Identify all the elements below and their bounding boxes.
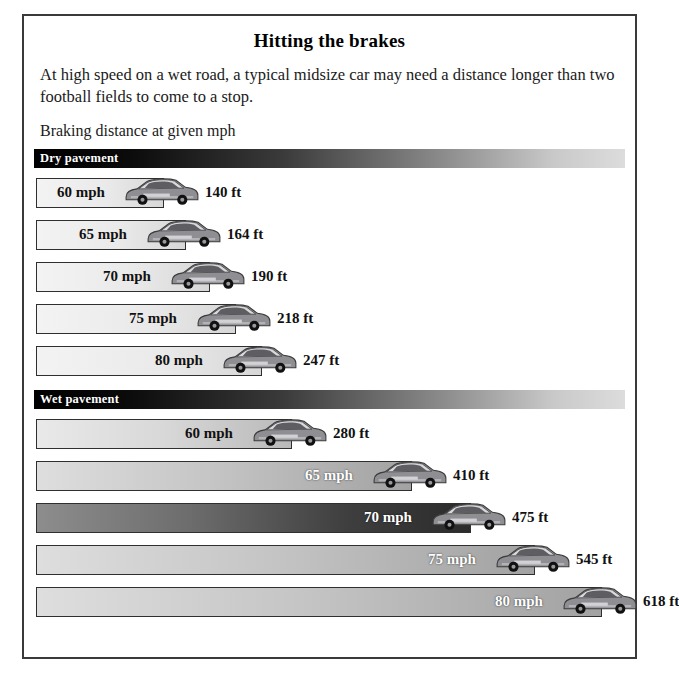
distance-label: 247 ft bbox=[303, 352, 339, 369]
distance-label: 164 ft bbox=[227, 226, 263, 243]
speed-label: 65 mph bbox=[79, 226, 127, 243]
car-icon bbox=[561, 585, 639, 618]
distance-label: 190 ft bbox=[251, 268, 287, 285]
deck-text: At high speed on a wet road, a typical m… bbox=[40, 64, 619, 108]
section-header-wet-label: Wet pavement bbox=[40, 392, 119, 407]
car-icon bbox=[251, 417, 329, 450]
car-icon bbox=[430, 501, 508, 534]
dry-bar-list: 60 mph 140 ft 65 mph 164 ft 70 mph bbox=[34, 174, 625, 379]
section-wet-pavement: Wet pavement 60 mph 280 ft 65 mph 410 ft… bbox=[34, 390, 625, 620]
distance-label: 618 ft bbox=[643, 593, 679, 610]
speed-label: 70 mph bbox=[364, 509, 412, 526]
bar-row: 70 mph 475 ft bbox=[34, 499, 625, 536]
bar-row: 60 mph 140 ft bbox=[34, 174, 625, 211]
wet-bar-list: 60 mph 280 ft 65 mph 410 ft 70 mph bbox=[34, 415, 625, 620]
car-icon bbox=[145, 218, 223, 251]
speed-label: 60 mph bbox=[185, 425, 233, 442]
distance-label: 280 ft bbox=[333, 425, 369, 442]
distance-bar bbox=[36, 461, 412, 491]
page-title: Hitting the brakes bbox=[24, 30, 635, 52]
distance-label: 410 ft bbox=[453, 467, 489, 484]
bar-row: 80 mph 247 ft bbox=[34, 342, 625, 379]
bar-row: 70 mph 190 ft bbox=[34, 258, 625, 295]
bar-row: 65 mph 164 ft bbox=[34, 216, 625, 253]
section-dry-pavement: Dry pavement 60 mph 140 ft 65 mph 164 ft… bbox=[34, 149, 625, 379]
car-icon bbox=[195, 302, 273, 335]
bar-row: 65 mph 410 ft bbox=[34, 457, 625, 494]
car-icon bbox=[123, 176, 201, 209]
bar-row: 60 mph 280 ft bbox=[34, 415, 625, 452]
speed-label: 80 mph bbox=[495, 593, 543, 610]
car-icon bbox=[494, 543, 572, 576]
speed-label: 75 mph bbox=[129, 310, 177, 327]
chart-subtitle: Braking distance at given mph bbox=[40, 122, 619, 140]
section-header-wet: Wet pavement bbox=[34, 390, 625, 409]
speed-label: 65 mph bbox=[305, 467, 353, 484]
bar-row: 75 mph 218 ft bbox=[34, 300, 625, 337]
distance-label: 475 ft bbox=[512, 509, 548, 526]
distance-label: 218 ft bbox=[277, 310, 313, 327]
distance-label: 140 ft bbox=[205, 184, 241, 201]
car-icon bbox=[371, 459, 449, 492]
section-header-dry: Dry pavement bbox=[34, 149, 625, 168]
car-icon bbox=[221, 344, 299, 377]
speed-label: 60 mph bbox=[57, 184, 105, 201]
bar-row: 80 mph 618 ft bbox=[34, 583, 625, 620]
section-header-dry-label: Dry pavement bbox=[40, 151, 118, 166]
bar-row: 75 mph 545 ft bbox=[34, 541, 625, 578]
distance-label: 545 ft bbox=[576, 551, 612, 568]
speed-label: 75 mph bbox=[428, 551, 476, 568]
infographic-frame: Hitting the brakes At high speed on a we… bbox=[22, 14, 637, 659]
speed-label: 80 mph bbox=[155, 352, 203, 369]
car-icon bbox=[169, 260, 247, 293]
speed-label: 70 mph bbox=[103, 268, 151, 285]
